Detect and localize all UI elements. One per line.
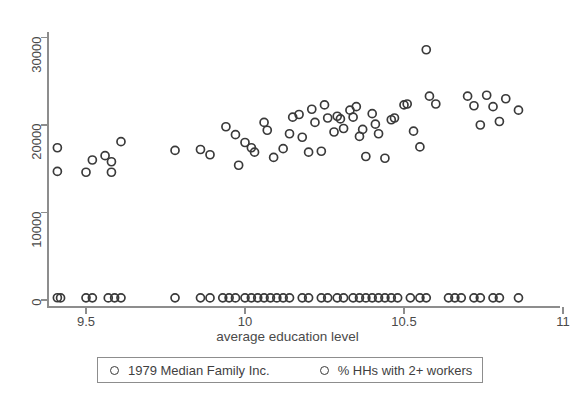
data-point	[260, 118, 268, 126]
data-point	[107, 168, 115, 176]
data-point	[422, 46, 430, 54]
data-point	[171, 294, 179, 302]
data-point	[305, 148, 313, 156]
data-point	[206, 294, 214, 302]
x-axis-tick-label: 10.5	[391, 314, 416, 329]
data-point	[206, 151, 214, 159]
data-point	[308, 105, 316, 113]
plot-svg	[0, 0, 575, 340]
data-point	[324, 114, 332, 122]
data-point	[410, 127, 418, 135]
data-point	[117, 138, 125, 146]
data-point	[375, 130, 383, 138]
x-axis-title: average education level	[0, 329, 575, 344]
data-point	[298, 133, 306, 141]
data-point	[476, 121, 484, 129]
data-point	[483, 91, 491, 99]
axes-group	[41, 32, 563, 314]
legend-item-label: % HHs with 2+ workers	[338, 363, 473, 378]
data-point	[432, 100, 440, 108]
data-point	[368, 110, 376, 118]
legend: 1979 Median Family Inc. % HHs with 2+ wo…	[97, 357, 483, 383]
data-point	[263, 126, 271, 134]
data-point	[88, 156, 96, 164]
y-axis-tick-label: 30000	[29, 36, 44, 72]
data-point	[514, 106, 522, 114]
data-point	[171, 146, 179, 154]
open-circle-icon	[320, 366, 329, 375]
data-point	[514, 294, 522, 302]
data-point	[416, 143, 424, 151]
scatter-plot-figure: 0100002000030000 9.51010.511 average edu…	[0, 0, 575, 393]
data-point	[101, 152, 109, 160]
x-axis-tick-label: 10	[238, 314, 252, 329]
data-point	[406, 294, 414, 302]
series-pct-hh-two-workers-points	[53, 294, 522, 302]
data-point	[222, 123, 230, 131]
y-axis-tick-label: 10000	[29, 211, 44, 247]
data-point	[371, 120, 379, 128]
data-point	[340, 125, 348, 133]
open-circle-icon	[110, 366, 119, 375]
data-point	[495, 118, 503, 126]
legend-item-median-family-income[interactable]: 1979 Median Family Inc.	[98, 358, 270, 382]
data-point	[235, 161, 243, 169]
data-point	[53, 144, 61, 152]
data-point	[489, 103, 497, 111]
data-point	[231, 131, 239, 139]
data-point	[381, 154, 389, 162]
data-point	[317, 147, 325, 155]
data-point	[470, 102, 478, 110]
x-axis-tick-label: 11	[556, 314, 570, 329]
data-point	[53, 167, 61, 175]
y-axis-tick-label: 0	[29, 299, 44, 306]
data-point	[352, 103, 360, 111]
data-point	[321, 101, 329, 109]
data-point	[359, 125, 367, 133]
data-point	[82, 168, 90, 176]
series-median-family-income-points	[53, 46, 522, 177]
legend-item-pct-hh-two-workers[interactable]: % HHs with 2+ workers	[270, 358, 473, 382]
data-point	[279, 145, 287, 153]
data-point	[196, 146, 204, 154]
data-point	[425, 92, 433, 100]
y-axis-tick-label: 20000	[29, 124, 44, 160]
data-point	[196, 294, 204, 302]
data-point	[286, 130, 294, 138]
data-point	[107, 158, 115, 166]
x-axis-tick-label: 9.5	[77, 314, 95, 329]
data-point	[270, 153, 278, 161]
data-point	[502, 95, 510, 103]
plot-area: 0100002000030000 9.51010.511	[0, 0, 575, 340]
legend-item-label: 1979 Median Family Inc.	[128, 363, 270, 378]
data-point	[362, 153, 370, 161]
data-point	[330, 128, 338, 136]
data-point	[464, 92, 472, 100]
data-point	[349, 113, 357, 121]
data-point	[311, 118, 319, 126]
